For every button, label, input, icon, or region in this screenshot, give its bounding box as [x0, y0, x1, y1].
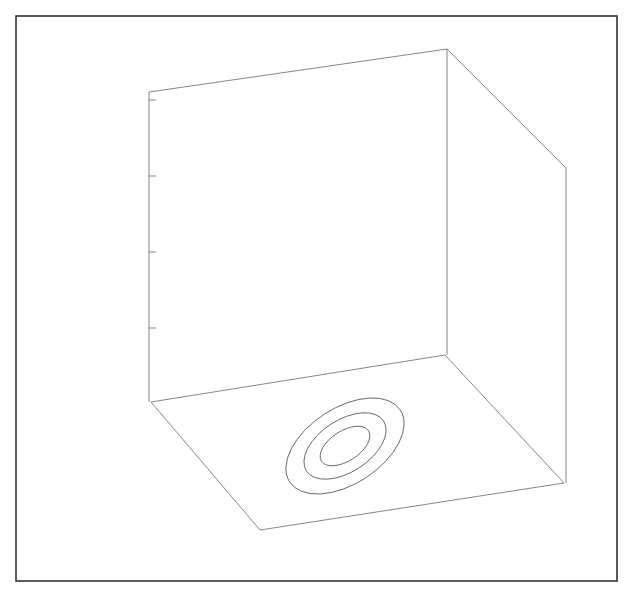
density-surface-figure	[0, 0, 628, 600]
floor-box	[151, 355, 564, 530]
floor-contours	[269, 378, 421, 514]
figure-border	[16, 16, 617, 581]
z-axis-ticks	[149, 100, 156, 328]
